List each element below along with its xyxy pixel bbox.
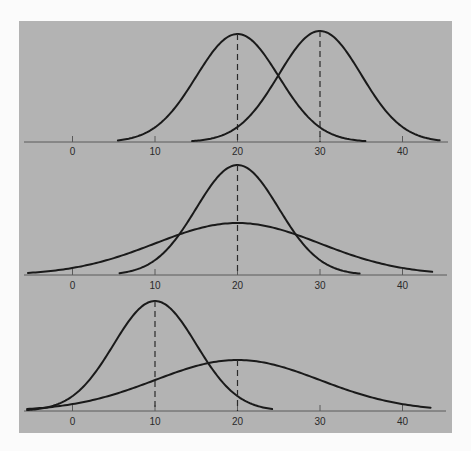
x-axis-tick-label: 10 <box>149 280 161 291</box>
x-axis-tick-label: 10 <box>149 146 161 157</box>
x-axis-tick-label: 40 <box>397 280 409 291</box>
x-axis-tick-label: 20 <box>232 416 244 427</box>
x-axis-tick-label: 40 <box>397 416 409 427</box>
x-axis-tick-label: 30 <box>314 146 326 157</box>
x-axis-tick-label: 20 <box>232 280 244 291</box>
normal-distribution-figure: 010203040 010203040 010203040 <box>0 0 471 451</box>
x-axis-tick-label: 10 <box>149 416 161 427</box>
x-axis-tick-label: 0 <box>70 146 76 157</box>
x-axis-tick-label: 30 <box>314 416 326 427</box>
x-axis-tick-label: 30 <box>314 280 326 291</box>
x-axis-tick-label: 0 <box>70 280 76 291</box>
x-axis-tick-label: 20 <box>232 146 244 157</box>
x-axis-tick-label: 40 <box>397 146 409 157</box>
x-axis-tick-label: 0 <box>70 416 76 427</box>
panel-background <box>19 21 452 433</box>
